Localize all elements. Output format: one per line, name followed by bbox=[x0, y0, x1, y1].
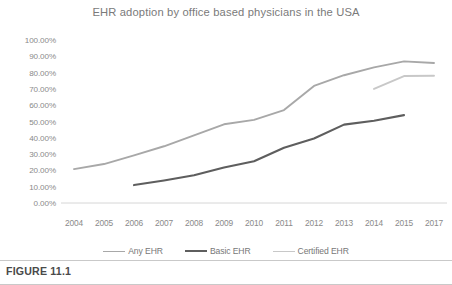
chart-area: EHR adoption by office based physicians … bbox=[0, 0, 452, 248]
series-line-basic-ehr bbox=[134, 115, 404, 185]
figure-container: EHR adoption by office based physicians … bbox=[0, 0, 452, 285]
x-axis-tick-label: 2004 bbox=[65, 218, 83, 228]
legend-item-basic-ehr[interactable]: Basic EHR bbox=[185, 246, 251, 256]
plot-region bbox=[0, 0, 452, 248]
x-axis-tick-label: 2005 bbox=[95, 218, 113, 228]
legend-label: Certified EHR bbox=[298, 246, 349, 256]
y-axis-labels: 0.00%10.00%20.00%30.00%40.00%50.00%60.00… bbox=[0, 0, 60, 248]
y-axis-tick-label: 80.00% bbox=[29, 68, 56, 77]
x-axis-tick-label: 2007 bbox=[155, 218, 173, 228]
chart-plot-svg bbox=[0, 0, 452, 248]
legend-line-swatch bbox=[185, 250, 207, 252]
y-axis-tick-label: 60.00% bbox=[29, 101, 56, 110]
legend-line-swatch bbox=[103, 251, 125, 252]
x-axis-labels: 2004200520062007200820092010201120122013… bbox=[0, 218, 452, 234]
x-axis-tick-label: 2006 bbox=[125, 218, 143, 228]
y-axis-tick-label: 90.00% bbox=[29, 52, 56, 61]
caption-rule-top bbox=[0, 260, 452, 261]
x-axis-tick-label: 2013 bbox=[335, 218, 353, 228]
figure-caption-block: FIGURE 11.1 bbox=[0, 260, 452, 285]
y-axis-tick-label: 0.00% bbox=[34, 199, 56, 208]
legend-item-certified-ehr[interactable]: Certified EHR bbox=[273, 246, 349, 256]
y-axis-tick-label: 10.00% bbox=[29, 182, 56, 191]
y-axis-tick-label: 40.00% bbox=[29, 133, 56, 142]
x-axis-tick-label: 2011 bbox=[275, 218, 293, 228]
x-axis-tick-label: 2012 bbox=[305, 218, 323, 228]
y-axis-tick-label: 20.00% bbox=[29, 166, 56, 175]
legend-label: Any EHR bbox=[128, 246, 163, 256]
x-axis-tick-label: 2009 bbox=[215, 218, 233, 228]
y-axis-tick-label: 50.00% bbox=[29, 117, 56, 126]
figure-caption-label: FIGURE 11.1 bbox=[6, 265, 71, 277]
legend-line-swatch bbox=[273, 251, 295, 252]
series-line-certified-ehr bbox=[374, 76, 434, 89]
legend-item-any-ehr[interactable]: Any EHR bbox=[103, 246, 163, 256]
series-line-any-ehr bbox=[74, 61, 434, 169]
x-axis-tick-label: 2010 bbox=[245, 218, 263, 228]
x-axis-tick-label: 2015 bbox=[395, 218, 413, 228]
y-axis-tick-label: 70.00% bbox=[29, 84, 56, 93]
x-axis-tick-label: 2017 bbox=[425, 218, 443, 228]
y-axis-tick-label: 30.00% bbox=[29, 150, 56, 159]
chart-legend: Any EHRBasic EHRCertified EHR bbox=[0, 243, 452, 259]
x-axis-tick-label: 2008 bbox=[185, 218, 203, 228]
legend-label: Basic EHR bbox=[210, 246, 251, 256]
x-axis-tick-label: 2014 bbox=[365, 218, 383, 228]
y-axis-tick-label: 100.00% bbox=[25, 36, 56, 45]
